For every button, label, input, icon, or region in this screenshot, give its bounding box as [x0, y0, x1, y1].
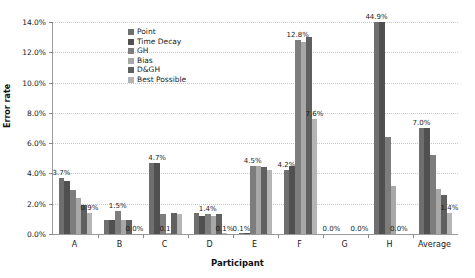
legend-item-label: Best Possible [137, 76, 186, 84]
bar [447, 213, 453, 234]
bar [177, 214, 183, 234]
legend-item-label: D&GH [137, 66, 160, 74]
legend-item[interactable]: Point [128, 28, 186, 36]
y-axis-tick-label: 10.0% [22, 78, 46, 87]
bar-slot: 0.0% [357, 22, 363, 234]
legend-item-label: Time Decay [137, 38, 181, 46]
legend-item[interactable]: D&GH [128, 66, 186, 74]
bar-slot: 1.4% [447, 22, 453, 234]
y-axis-tick-label: 8.0% [27, 108, 46, 117]
bar-slot: 0.1% [222, 22, 228, 234]
x-axis-tick-label: C [142, 240, 187, 249]
x-axis-tick-label: E [232, 240, 277, 249]
bar-group: 4.2%12.8%7.6% [278, 22, 323, 234]
y-axis-tick-label: 2.0% [27, 199, 46, 208]
bar-group: 1.4%0.1% [188, 22, 233, 234]
bar-groups: 3.7%0.9%1.5%0.0%4.7%0.1%1.4%0.1%0.1%4.5%… [53, 22, 458, 234]
legend-swatch-icon [128, 48, 134, 54]
bar [312, 119, 318, 234]
legend-item-label: GH [137, 47, 148, 55]
bar-chart: Error rate 0.0%2.0%4.0%6.0%8.0%10.0%12.0… [0, 0, 475, 278]
bar-group: 0.1%4.5% [233, 22, 278, 234]
x-axis-separator-tick [233, 234, 234, 238]
bar-group: 3.7%0.9% [53, 22, 98, 234]
y-axis-tick-label: 6.0% [27, 139, 46, 148]
x-axis-tick-label: G [322, 240, 367, 249]
legend-item[interactable]: Best Possible [128, 76, 186, 84]
bar-group: 0.0%0.0% [323, 22, 368, 234]
legend: PointTime DecayGHBiasD&GHBest Possible [128, 28, 186, 84]
x-axis-separator-tick [413, 234, 414, 238]
x-axis-separator-tick [368, 234, 369, 238]
x-axis-tick-label: Average [412, 240, 457, 249]
legend-item-label: Point [137, 28, 156, 36]
x-axis-separator-tick [323, 234, 324, 238]
bar [267, 170, 273, 234]
x-axis-separator-tick [188, 234, 189, 238]
x-axis-tick-labels: ABCDEFGHAverage [52, 240, 457, 249]
y-axis-tick-label: 0.0% [27, 230, 46, 239]
y-axis-tick-label: 4.0% [27, 169, 46, 178]
x-axis-separator-tick [278, 234, 279, 238]
legend-item[interactable]: Bias [128, 57, 186, 65]
x-axis-separator-tick [98, 234, 99, 238]
legend-swatch-icon [128, 58, 134, 64]
bar [87, 213, 93, 234]
bar-group: 44.9%0.0% [368, 22, 413, 234]
x-axis-separator-tick [143, 234, 144, 238]
x-axis-tick-label: D [187, 240, 232, 249]
legend-item[interactable]: GH [128, 47, 186, 55]
legend-swatch-icon [128, 67, 134, 73]
legend-item[interactable]: Time Decay [128, 38, 186, 46]
bar-value-label: 44.9% [365, 13, 387, 21]
legend-item-label: Bias [137, 57, 153, 65]
y-axis-tick-label: 14.0% [22, 18, 46, 27]
y-axis-title: Error rate [3, 84, 12, 128]
bar-slot [267, 22, 273, 234]
plot-area: 0.0%2.0%4.0%6.0%8.0%10.0%12.0%14.0% 3.7%… [52, 22, 458, 235]
bar-group: 7.0%1.4% [413, 22, 458, 234]
bar [222, 233, 228, 235]
y-axis-tick-label: 12.0% [22, 48, 46, 57]
x-axis-tick-label: F [277, 240, 322, 249]
x-axis-title: Participant [0, 258, 475, 268]
legend-swatch-icon [128, 39, 134, 45]
x-axis-tick-label: B [97, 240, 142, 249]
legend-swatch-icon [128, 77, 134, 83]
x-axis-tick-label: H [367, 240, 412, 249]
bar-slot [402, 22, 408, 234]
bar-slot: 0.9% [87, 22, 93, 234]
x-axis-tick-label: A [52, 240, 97, 249]
legend-swatch-icon [128, 29, 134, 35]
bar-slot: 7.6% [312, 22, 318, 234]
y-axis-tick [49, 234, 53, 235]
